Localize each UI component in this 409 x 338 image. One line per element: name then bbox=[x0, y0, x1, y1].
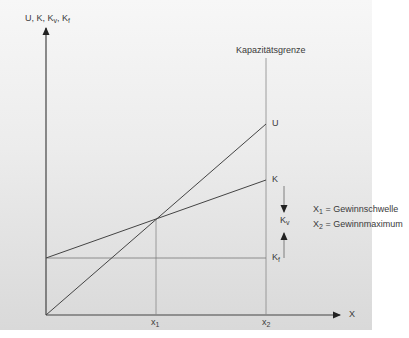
y-axis-label: U, K, Kv, Kf bbox=[25, 14, 70, 24]
capacity-limit-label: Kapazitätsgrenze bbox=[236, 46, 306, 55]
kv-label: Kv bbox=[280, 216, 290, 226]
k-label: K bbox=[272, 175, 278, 184]
legend-x2: X2 = Gewinnmaximum bbox=[313, 220, 403, 230]
chart-svg bbox=[0, 0, 409, 338]
x1-tick-label: x1 bbox=[151, 318, 159, 328]
kf-label: Kf bbox=[272, 253, 280, 263]
x2-tick-label: x2 bbox=[262, 318, 270, 328]
x-axis-label: X bbox=[349, 310, 355, 319]
legend-x1: X1 = Gewinnschwelle bbox=[313, 205, 398, 215]
u-label: U bbox=[272, 119, 279, 128]
